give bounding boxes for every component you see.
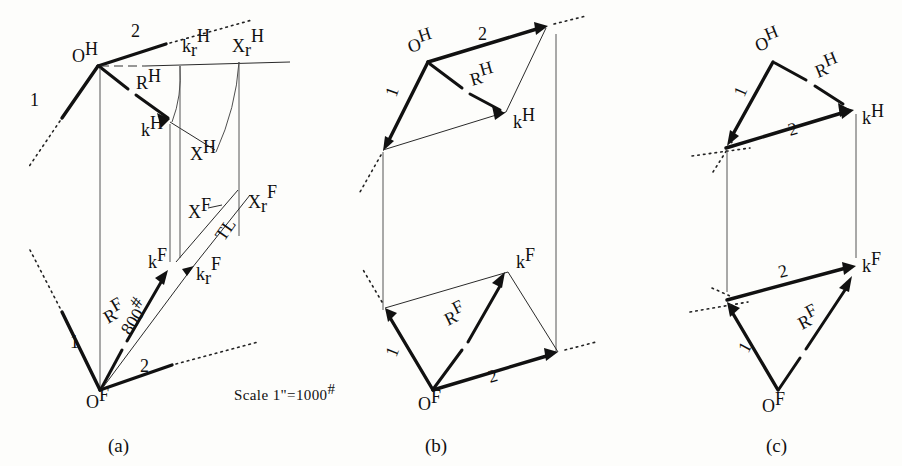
engineering-drawing: OH 1 2 RH kH krH XrH XH (0, 0, 902, 466)
c-h-resultant-seg2 (815, 86, 843, 104)
a-h-resultant-label: RH (136, 66, 161, 93)
a-f-member-2-extension (176, 342, 258, 364)
b-h-member-1-label: 1 (381, 84, 403, 99)
c-f-resultant-arrowhead (839, 276, 852, 292)
a-h-member-1-label: 1 (30, 90, 39, 110)
a-h-arc-kr (172, 66, 180, 122)
a-h-x-label: XH (190, 137, 216, 164)
c-h-member-1-label: 1 (729, 83, 751, 99)
a-f-x-label: XF (188, 195, 211, 222)
caption-c: (c) (766, 435, 787, 457)
c-h-k-label: kH (862, 101, 884, 128)
b-f-member-2-extension (565, 342, 596, 350)
c-f-member-2-arrowhead (842, 262, 856, 275)
caption-a: (a) (108, 435, 129, 457)
b-h-k-label: kH (513, 105, 535, 132)
c-f-member-2-label: 2 (776, 260, 790, 282)
a-h-origin-label: OH (72, 39, 98, 66)
a-h-kr-label: krH (182, 26, 210, 60)
a-f-origin-label: OF (86, 385, 109, 412)
b-f-k-label: kF (516, 245, 535, 272)
b-f-resultant-label: RF (438, 296, 470, 330)
a-h-k-label: kH (141, 113, 163, 140)
c-f-resultant-seg1 (779, 358, 800, 389)
b-h-member-2-label: 2 (478, 24, 487, 44)
a-f-true-length-label: TL (211, 215, 240, 244)
figure-canvas: OH 1 2 RH kH krH XrH XH (0, 0, 902, 466)
a-h-member-2-label: 2 (131, 21, 140, 41)
a-f-member-2-label: 2 (140, 356, 149, 376)
a-f-xr-label: XrF (248, 182, 277, 216)
a-f-member-1-extension (30, 250, 60, 308)
diagram-c: OH 1 2 RH kH (690, 21, 884, 457)
diagram-c-front-view: OF 1 2 RF kF (690, 249, 881, 416)
c-h-vertex-dotted-1 (692, 148, 750, 156)
b-h-resultant-seg2 (470, 94, 500, 110)
a-h-resultant-seg1 (100, 67, 128, 89)
caption-b: (b) (425, 435, 447, 457)
diagram-b-front-view: OF 1 2 RF kF (362, 245, 596, 414)
b-h-member-2-extension (554, 16, 586, 24)
a-h-xr-label: XrH (232, 26, 264, 60)
b-h-member-1-line (387, 62, 428, 144)
c-f-vertex-dotted-1 (690, 302, 748, 312)
c-f-origin-label: OF (762, 389, 785, 416)
a-h-member-1-extension (28, 121, 60, 168)
a-f-member-1-line (62, 312, 100, 390)
c-h-resultant-seg1 (775, 63, 806, 80)
c-h-origin-label: OH (749, 21, 783, 56)
diagram-a-front-view: OF 1 2 RF 800# kF krF XF XrF TL (30, 182, 277, 412)
a-f-kr-label: krF (196, 254, 221, 288)
scale-note: Scale 1"=1000# (234, 381, 336, 403)
b-f-member-1-label: 1 (381, 344, 403, 360)
c-h-resultant-label: RH (809, 47, 842, 81)
a-h-member-2-line (98, 44, 166, 66)
b-h-origin-label: OH (403, 23, 436, 57)
c-f-member-1-label: 1 (734, 339, 756, 356)
b-h-resultant-label: RH (466, 57, 497, 90)
b-h-member-1-extension (360, 155, 381, 192)
a-f-resultant-arrowhead (155, 270, 168, 285)
a-f-k-label: kF (148, 245, 167, 272)
c-f-member-1-line (732, 312, 778, 390)
c-f-k-label: kF (862, 249, 881, 276)
c-h-member-2-label: 2 (786, 118, 800, 140)
diagram-b-top-view: OH 1 2 RH kH (360, 16, 586, 352)
b-h-resultant-seg1 (430, 64, 462, 88)
a-h-arc-xr (216, 62, 239, 152)
a-f-member-1-label: 1 (70, 332, 79, 352)
diagram-c-top-view: OH 1 2 RH kH (692, 21, 884, 292)
c-h-member-1-line (732, 62, 773, 136)
b-f-member-1-extension (362, 268, 382, 302)
diagram-b: OH 1 2 RH kH (360, 16, 596, 457)
a-h-reference-line (145, 62, 290, 66)
b-h-parallel-side-right (506, 28, 546, 112)
b-f-parallel-side-right (508, 272, 558, 352)
a-h-member-1-line (62, 66, 98, 118)
b-f-origin-label: OF (418, 387, 441, 414)
b-f-resultant-seg2 (468, 286, 500, 342)
b-f-member-2-label: 2 (486, 365, 500, 387)
